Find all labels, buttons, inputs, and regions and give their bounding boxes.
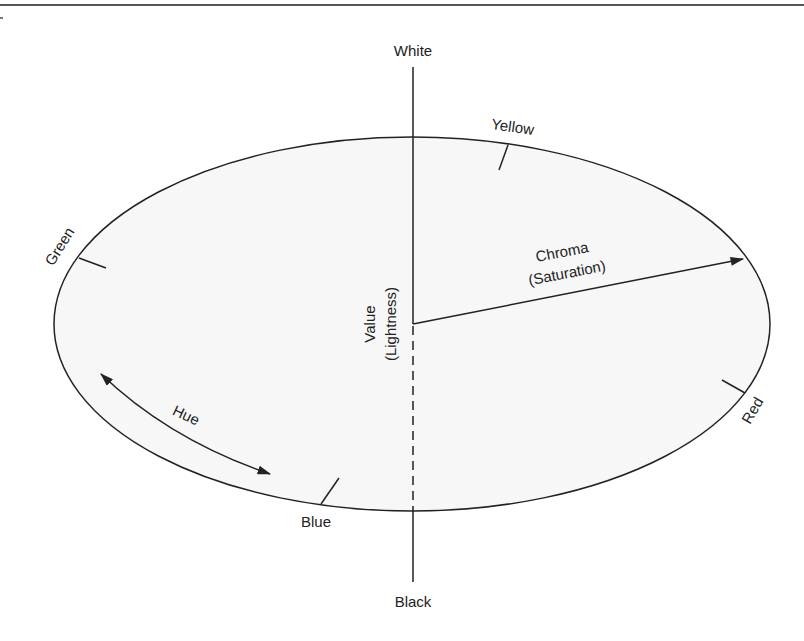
yellow-label: Yellow xyxy=(490,115,535,138)
black-label: Black xyxy=(395,593,432,610)
hue-ellipse xyxy=(54,137,770,511)
value-label: Value xyxy=(361,305,378,342)
red-label: Red xyxy=(738,394,766,426)
color-space-diagram: White Black Yellow Green Red Blue Hue Ch… xyxy=(0,0,804,641)
lightness-label: (Lightness) xyxy=(382,287,399,361)
green-label: Green xyxy=(41,224,78,268)
blue-label: Blue xyxy=(301,513,331,530)
white-label: White xyxy=(394,42,432,59)
